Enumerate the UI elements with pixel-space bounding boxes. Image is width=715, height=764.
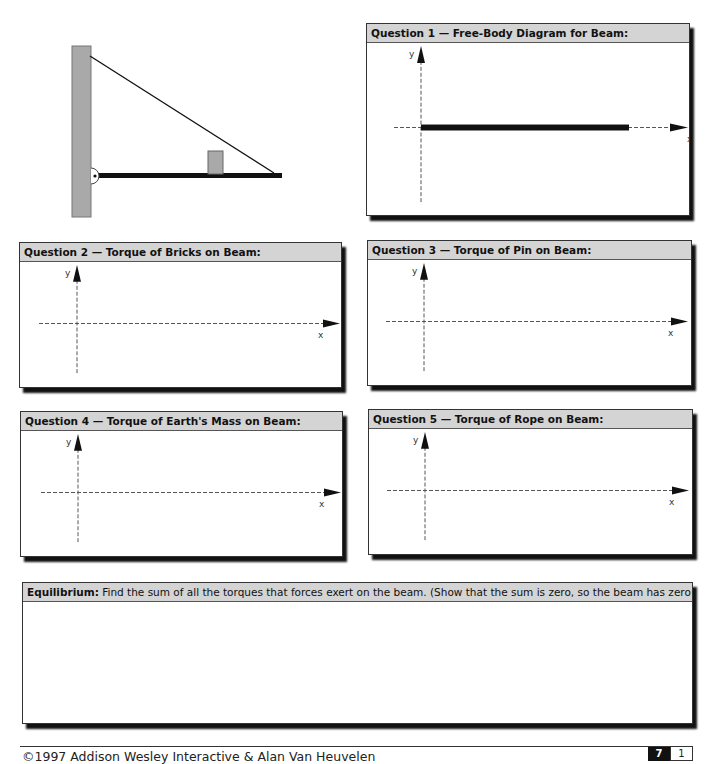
copyright-text: ©1997 Addison Wesley Interactive & Alan …: [22, 749, 375, 764]
y-axis-arrow-icon: [420, 263, 428, 280]
question-3-panel: Question 3 — Torque of Pin on Beam: x y: [367, 240, 692, 386]
question-5-title: Question 5 — Torque of Rope on Beam:: [369, 410, 692, 429]
rope: [90, 56, 274, 173]
x-axis-arrow-icon: [670, 124, 688, 132]
equilibrium-answer-area[interactable]: [23, 602, 692, 723]
y-axis-label: y: [409, 49, 415, 59]
x-axis-arrow-icon: [672, 487, 689, 495]
y-axis-arrow-icon: [74, 434, 82, 451]
x-axis-arrow-icon: [323, 320, 340, 328]
wall: [72, 46, 91, 217]
footer-divider: [20, 746, 693, 747]
y-axis-arrow-icon: [73, 265, 81, 282]
y-axis-label: y: [413, 435, 419, 445]
equilibrium-instructions: Find the sum of all the torques that for…: [99, 586, 692, 598]
x-axis-arrow-icon: [324, 489, 341, 497]
question-1-panel: Question 1 — Free-Body Diagram for Beam:…: [366, 23, 690, 216]
question-3-title: Question 3 — Torque of Pin on Beam:: [368, 241, 691, 260]
equilibrium-header: Equilibrium: Find the sum of all the tor…: [23, 583, 692, 602]
question-2-title: Question 2 — Torque of Bricks on Beam:: [20, 243, 341, 262]
bricks: [208, 151, 223, 174]
x-axis-label: x: [669, 497, 674, 507]
question-5-drawing-area[interactable]: x y: [369, 429, 692, 554]
y-axis-label: y: [66, 437, 72, 447]
beam-in-fbd: [421, 125, 629, 131]
question-4-drawing-area[interactable]: x y: [21, 431, 342, 556]
page-number: 1: [670, 747, 693, 761]
question-3-drawing-area[interactable]: x y: [368, 260, 691, 385]
question-4-panel: Question 4 — Torque of Earth's Mass on B…: [20, 411, 343, 557]
y-axis-arrow-icon: [421, 432, 429, 449]
equilibrium-label: Equilibrium:: [27, 586, 99, 598]
question-2-drawing-area[interactable]: x y: [20, 262, 341, 387]
x-axis-arrow-icon: [671, 318, 688, 326]
x-axis-label: x: [318, 330, 323, 340]
pin-dot: [93, 174, 96, 177]
question-1-drawing-area[interactable]: x y: [367, 43, 689, 215]
chapter-number: 7: [648, 747, 670, 761]
y-axis-label: y: [65, 268, 71, 278]
beam-rope-diagram: [0, 0, 300, 225]
question-2-panel: Question 2 — Torque of Bricks on Beam: x…: [19, 242, 342, 388]
equilibrium-panel: Equilibrium: Find the sum of all the tor…: [22, 582, 693, 724]
x-axis-label: x: [687, 134, 689, 144]
question-1-title: Question 1 — Free-Body Diagram for Beam:: [367, 24, 689, 43]
y-axis-arrow-icon: [417, 46, 425, 63]
question-5-panel: Question 5 — Torque of Rope on Beam: x y: [368, 409, 693, 555]
y-axis-label: y: [412, 266, 418, 276]
x-axis-label: x: [668, 328, 673, 338]
question-4-title: Question 4 — Torque of Earth's Mass on B…: [21, 412, 342, 431]
x-axis-label: x: [319, 499, 324, 509]
beam: [96, 173, 282, 178]
